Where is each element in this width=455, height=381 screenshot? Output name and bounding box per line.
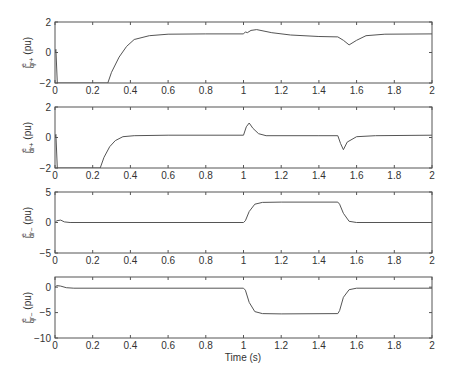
x-tick-label: 1.6 — [350, 340, 364, 351]
x-tick-label: 0.8 — [199, 255, 213, 266]
x-tick-label: 1 — [241, 255, 247, 266]
data-line — [55, 123, 432, 168]
x-tick-label: 0.8 — [199, 85, 213, 96]
x-axis-label: Time (s) — [225, 352, 261, 363]
x-tick-label: 0.8 — [199, 340, 213, 351]
x-tick-label: 0.2 — [86, 170, 100, 181]
x-tick-label: 1.8 — [387, 255, 401, 266]
y-tick-label: 2 — [45, 17, 51, 28]
x-tick-label: 1.4 — [312, 340, 326, 351]
x-tick-label: 0.6 — [161, 170, 175, 181]
x-tick-label: 1.6 — [350, 170, 364, 181]
y-tick-label: 0 — [45, 282, 51, 293]
y-tick-label: −2 — [40, 163, 52, 174]
x-tick-label: 0.2 — [86, 255, 100, 266]
data-line — [55, 286, 432, 314]
y-axis-label: ieqr−(pu) — [20, 292, 36, 323]
x-tick-label: 0.8 — [199, 170, 213, 181]
x-tick-label: 0 — [52, 255, 58, 266]
y-tick-label: −5 — [40, 248, 52, 259]
x-tick-label: 2 — [429, 255, 435, 266]
x-tick-label: 1.4 — [312, 255, 326, 266]
axes-frame — [55, 277, 432, 338]
x-tick-label: 1 — [241, 170, 247, 181]
x-tick-label: 1.6 — [350, 85, 364, 96]
subplot-idr-plus: 00.20.40.60.811.21.41.61.8220−2iedr+(pu) — [20, 102, 435, 182]
x-tick-label: 0.6 — [161, 255, 175, 266]
y-axis-label: iedr−(pu) — [20, 207, 35, 238]
data-line — [55, 30, 432, 83]
x-tick-label: 0 — [52, 170, 58, 181]
y-axis-label: iedr+(pu) — [20, 122, 35, 153]
x-tick-label: 0.6 — [161, 340, 175, 351]
x-tick-label: 0.4 — [123, 170, 137, 181]
y-axis-label: ieqr+(pu) — [20, 37, 36, 68]
x-tick-label: 1.4 — [312, 85, 326, 96]
x-tick-label: 1.4 — [312, 170, 326, 181]
subplot-idr-minus: 00.20.40.60.811.21.41.61.8250−5iedr−(pu) — [20, 187, 435, 267]
y-tick-label: 0 — [45, 132, 51, 143]
x-tick-label: 0.2 — [86, 340, 100, 351]
y-tick-label: −10 — [34, 333, 51, 344]
x-tick-label: 0 — [52, 85, 58, 96]
subplot-iqr-plus: 00.20.40.60.811.21.41.61.8220−2ieqr+(pu) — [20, 17, 435, 97]
x-tick-label: 0 — [52, 340, 58, 351]
x-tick-label: 1.8 — [387, 170, 401, 181]
y-tick-label: 0 — [45, 47, 51, 58]
x-tick-label: 0.6 — [161, 85, 175, 96]
x-tick-label: 2 — [429, 85, 435, 96]
y-tick-label: 5 — [45, 187, 51, 198]
x-tick-label: 1.2 — [274, 340, 288, 351]
y-tick-label: 2 — [45, 102, 51, 113]
axes-frame — [55, 22, 432, 83]
x-tick-label: 1.2 — [274, 85, 288, 96]
x-tick-label: 2 — [429, 170, 435, 181]
x-tick-label: 0.4 — [123, 340, 137, 351]
x-tick-label: 1.8 — [387, 340, 401, 351]
x-tick-label: 1 — [241, 85, 247, 96]
y-tick-label: −2 — [40, 78, 52, 89]
figure: 00.20.40.60.811.21.41.61.8220−2ieqr+(pu)… — [0, 0, 455, 381]
y-tick-label: 0 — [45, 217, 51, 228]
y-tick-label: −5 — [40, 307, 52, 318]
subplot-iqr-minus: 00.20.40.60.811.21.41.61.820−5−10ieqr−(p… — [20, 277, 435, 351]
axes-frame — [55, 107, 432, 168]
x-tick-label: 1.2 — [274, 170, 288, 181]
x-tick-label: 1.2 — [274, 255, 288, 266]
x-tick-label: 0.2 — [86, 85, 100, 96]
x-tick-label: 1.8 — [387, 85, 401, 96]
x-tick-label: 0.4 — [123, 85, 137, 96]
data-line — [55, 202, 432, 222]
x-tick-label: 2 — [429, 340, 435, 351]
x-tick-label: 1.6 — [350, 255, 364, 266]
x-tick-label: 0.4 — [123, 255, 137, 266]
x-tick-label: 1 — [241, 340, 247, 351]
